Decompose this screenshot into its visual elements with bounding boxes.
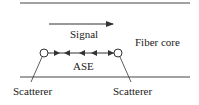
ase-arrowhead-left: [64, 50, 70, 56]
scatterer-right-circle: [114, 49, 122, 57]
signal-label: Signal: [70, 28, 98, 40]
scatterer-right-label: Scatterer: [113, 85, 152, 97]
ase-arrowhead-left: [91, 50, 97, 56]
scatterer-right-leader: [120, 57, 131, 82]
ase-arrowhead-right: [54, 50, 60, 56]
scatterer-left-circle: [40, 49, 48, 57]
ase-arrowhead-left: [79, 50, 85, 56]
ase-arrowhead-right: [108, 50, 114, 56]
fiber-core-label: Fiber core: [135, 36, 180, 48]
scatterer-left-leader: [31, 57, 42, 82]
scatterer-left-label: Scatterer: [13, 85, 52, 97]
ase-label: ASE: [73, 60, 94, 72]
fiber-diagram: Signal Fiber core ASE Scatterer Scattere…: [0, 0, 199, 105]
